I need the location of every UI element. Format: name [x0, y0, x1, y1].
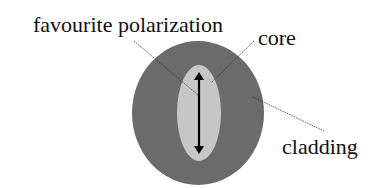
cladding-label: cladding: [282, 136, 358, 158]
polarization-label: favourite polarization: [33, 14, 223, 36]
fiber-diagram: favourite polarization core cladding: [0, 0, 378, 188]
core-label: core: [258, 27, 296, 49]
